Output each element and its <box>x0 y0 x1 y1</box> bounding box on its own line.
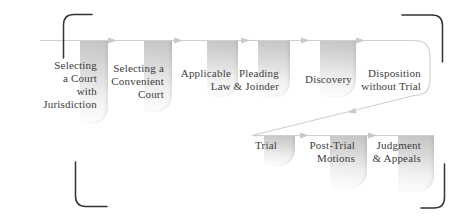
step-label-judgment-appeals: Judgment & Appeals <box>358 139 421 165</box>
arrowhead-icon <box>174 38 183 44</box>
step-label-discovery: Discovery <box>290 73 352 86</box>
arrowhead-icon <box>301 38 310 44</box>
step-label-line: Court <box>100 88 164 101</box>
step-label-selecting-convenient-court: Selecting a Convenient Court <box>100 62 164 101</box>
step-label-trial: Trial <box>230 139 277 152</box>
step-label-disposition-without-trial: Disposition without Trial <box>355 67 421 93</box>
frame-corner-top-right <box>402 15 443 62</box>
step-label-line: Convenient <box>100 75 164 88</box>
step-label-pleading-joinder: Pleading & Joinder <box>218 67 279 93</box>
step-label-line: Trial <box>230 139 277 152</box>
flowchart-figure: Selecting a Court with Jurisdiction Sele… <box>0 0 469 223</box>
step-label-line: a Court <box>30 72 97 85</box>
step-label-line: Selecting <box>30 59 97 72</box>
frame-corner-bottom-left <box>76 162 108 207</box>
connector-overlay <box>0 0 469 223</box>
step-label-line: & Joinder <box>218 80 279 93</box>
arrowhead-icon <box>108 38 117 44</box>
arrowhead-icon <box>356 38 365 44</box>
step-label-line: Motions <box>293 152 355 165</box>
step-label-line: & Appeals <box>358 152 421 165</box>
step-label-line: Post-Trial <box>293 139 355 152</box>
arrowhead-icon <box>368 133 377 139</box>
step-label-line: Discovery <box>290 73 352 86</box>
step-label-line: Selecting a <box>100 62 164 75</box>
step-label-line: Judgment <box>358 139 421 152</box>
step-label-post-trial-motions: Post-Trial Motions <box>293 139 355 165</box>
arrowhead-icon <box>300 133 309 139</box>
step-label-line: Pleading <box>218 67 279 80</box>
step-label-line: without Trial <box>355 80 421 93</box>
step-label-line: Disposition <box>355 67 421 80</box>
frame-corner-top-left <box>64 15 93 59</box>
step-label-line: Jurisdiction <box>30 98 97 111</box>
frame-corner-bottom-right <box>421 164 445 208</box>
arrowhead-icon <box>241 38 250 44</box>
step-label-selecting-court-jurisdiction: Selecting a Court with Jurisdiction <box>30 59 97 111</box>
step-label-line: with <box>30 85 97 98</box>
